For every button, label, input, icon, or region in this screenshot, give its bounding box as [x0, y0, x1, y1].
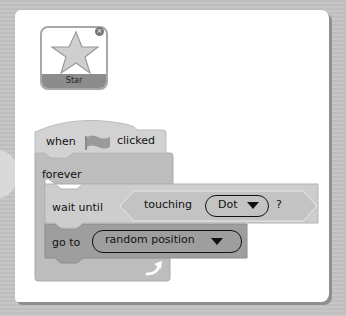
- chevron-down-icon: [247, 202, 259, 209]
- hat-when-label: when: [46, 135, 76, 148]
- script-blocks: [0, 0, 346, 316]
- chevron-down-icon: [211, 238, 223, 245]
- touching-target-dropdown[interactable]: Dot: [205, 195, 269, 217]
- question-mark: ?: [276, 198, 282, 211]
- touching-label: touching: [144, 198, 192, 211]
- touching-target-value: Dot: [218, 198, 238, 211]
- go-to-target-dropdown[interactable]: random position: [92, 230, 242, 253]
- hat-clicked-label: clicked: [117, 134, 155, 147]
- wait-until-label: wait until: [52, 201, 103, 214]
- forever-label: forever: [42, 168, 81, 181]
- go-to-target-value: random position: [105, 233, 195, 246]
- go-to-label: go to: [52, 236, 80, 249]
